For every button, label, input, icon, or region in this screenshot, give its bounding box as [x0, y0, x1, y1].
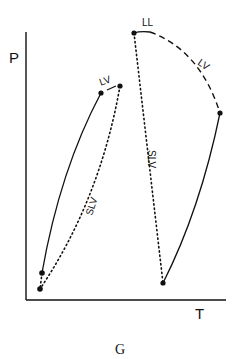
left-lv-solid-curve [42, 93, 101, 273]
figure-caption: G [115, 342, 125, 357]
left-top-point-2 [117, 83, 122, 88]
phase-diagram: P T LV SLV LL LV SLV G [0, 0, 240, 359]
left-slv-dotted-curve [40, 86, 120, 289]
y-axis-label: P [9, 49, 19, 66]
right-side-point [217, 110, 222, 115]
left-top-point-1 [98, 90, 103, 95]
right-slv-label: SLV [146, 150, 157, 168]
right-lv-dashed-curve [150, 32, 220, 113]
left-lv-label: LV [98, 73, 113, 87]
right-ll-label: LL [142, 17, 154, 28]
right-lv-label: LV [196, 57, 212, 73]
left-lv-tie [107, 86, 116, 90]
left-bottom-point-2 [37, 286, 43, 292]
x-axis-label: T [195, 305, 204, 322]
right-solid-curve [163, 113, 220, 283]
left-slv-label: SLV [83, 196, 99, 217]
left-bottom-point-1 [39, 270, 45, 276]
right-bottom-point [160, 280, 165, 285]
right-top-point [131, 30, 136, 35]
